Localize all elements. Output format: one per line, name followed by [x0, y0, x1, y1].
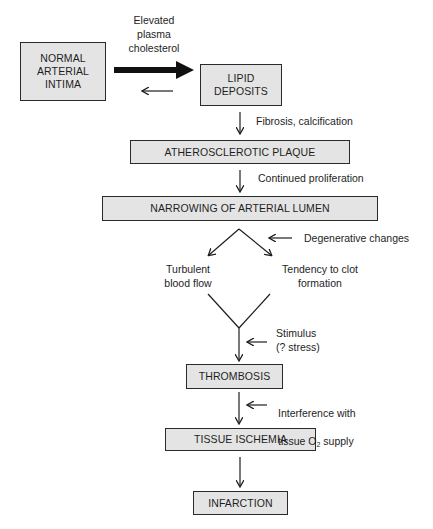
label-elevated-cholesterol: Elevated plasma cholesterol [118, 13, 190, 55]
box-label: NORMAL ARTERIAL INTIMA [37, 52, 89, 91]
box-label: TISSUE ISCHEMIA [194, 433, 287, 446]
text: supply [320, 435, 353, 447]
box-atherosclerotic-plaque: ATHEROSCLEROTIC PLAQUE [130, 140, 350, 164]
thick-arrow-icon [114, 61, 194, 79]
box-label: ATHEROSCLEROTIC PLAQUE [165, 146, 316, 159]
box-infarction: INFARCTION [193, 491, 288, 515]
box-lipid-deposits: LIPID DEPOSITS [200, 64, 282, 106]
box-label: NARROWING OF ARTERIAL LUMEN [150, 202, 329, 215]
label-turbulent-flow: Turbulent blood flow [148, 262, 228, 290]
label-fibrosis: Fibrosis, calcification [256, 114, 353, 128]
box-label: THROMBOSIS [199, 370, 271, 383]
text: tissue O [278, 435, 317, 447]
label-interference: Interference with tissue O2 supply [278, 392, 356, 452]
label-interference-line2: tissue O2 supply [278, 435, 354, 447]
box-thrombosis: THROMBOSIS [186, 364, 283, 389]
label-interference-line1: Interference with [278, 407, 356, 419]
box-label: INFARCTION [208, 497, 273, 510]
label-degenerative: Degenerative changes [304, 231, 409, 245]
box-label: LIPID DEPOSITS [214, 72, 268, 98]
box-normal-arterial-intima: NORMAL ARTERIAL INTIMA [20, 42, 106, 101]
label-stimulus: Stimulus (? stress) [276, 326, 320, 354]
box-narrowing-lumen: NARROWING OF ARTERIAL LUMEN [102, 196, 378, 221]
label-clot-formation: Tendency to clot formation [270, 262, 370, 290]
label-proliferation: Continued proliferation [258, 171, 364, 185]
